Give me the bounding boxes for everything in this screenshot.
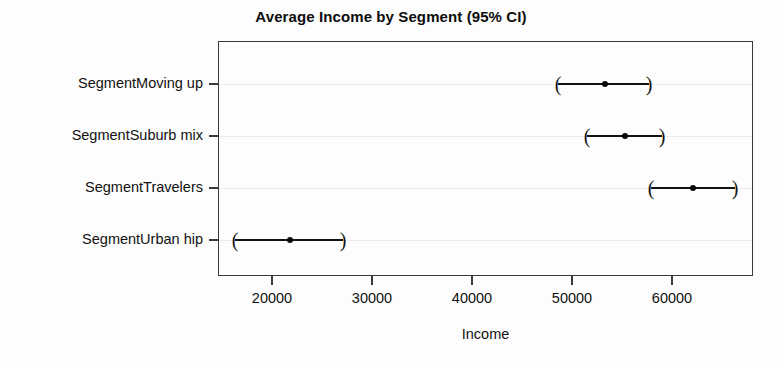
ci-upper-cap: ) [728,178,742,198]
ci-lower-cap: ( [580,126,594,146]
y-tick-1 [209,135,218,137]
y-tick-label-wrap-0: SegmentMoving up [0,75,203,93]
ci-upper-cap: ) [655,126,669,146]
ci-estimate-marker [622,133,628,139]
ci-lower-cap: ( [228,230,242,250]
x-tick-4 [671,276,673,285]
ci-estimate-marker [602,81,608,87]
y-tick-label: SegmentMoving up [3,75,203,91]
x-tick-label: 50000 [527,290,617,306]
y-tick-label-wrap-1: SegmentSuburb mix [0,127,203,145]
ci-lower-cap: ( [551,74,565,94]
y-tick-label-wrap-3: SegmentUrban hip [0,231,203,249]
x-tick-label: 40000 [427,290,517,306]
x-tick-label: 60000 [627,290,717,306]
ci-upper-cap: ) [642,74,656,94]
y-tick-3 [209,239,218,241]
chart-canvas: Average Income by Segment (95% CI) Segme… [0,0,782,368]
y-tick-label: SegmentUrban hip [3,231,203,247]
ci-lower-cap: ( [644,178,658,198]
chart-title: Average Income by Segment (95% CI) [0,8,782,25]
ci-estimate-marker [287,237,293,243]
y-tick-label: SegmentTravelers [3,179,203,195]
x-tick-label: 30000 [327,290,417,306]
ci-estimate-marker [690,185,696,191]
y-tick-2 [209,187,218,189]
x-tick-label: 20000 [227,290,317,306]
x-axis-title: Income [218,326,753,342]
ci-upper-cap: ) [336,230,350,250]
x-tick-3 [571,276,573,285]
x-tick-2 [471,276,473,285]
y-tick-label: SegmentSuburb mix [3,127,203,143]
x-tick-1 [371,276,373,285]
y-tick-label-wrap-2: SegmentTravelers [0,179,203,197]
x-tick-0 [271,276,273,285]
y-tick-0 [209,83,218,85]
